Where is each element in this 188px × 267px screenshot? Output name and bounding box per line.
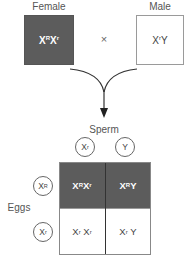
allele-base: X (83, 226, 89, 237)
allele-base: X (72, 180, 78, 191)
allele-base: X (119, 226, 125, 237)
allele-base: X (72, 226, 78, 237)
sperm-allele-circle: Y (115, 137, 135, 157)
egg-allele-circle: Xr (33, 222, 53, 242)
eggs-label: Eggs (4, 202, 34, 213)
punnett-square: XRXr XRY Xr Xr Xr Y (59, 162, 151, 255)
allele-base: Y (130, 180, 136, 191)
sperm-label: Sperm (84, 124, 124, 135)
allele-base: Y (130, 226, 136, 237)
punnett-cell: XRY (105, 162, 151, 208)
allele-base: X (119, 180, 125, 191)
sperm-allele-circle: Xr (75, 137, 95, 157)
egg-allele-circle: XR (33, 176, 53, 196)
punnett-cell: Xr Y (105, 208, 151, 255)
allele-base: X (38, 181, 44, 191)
allele-base: Y (122, 142, 128, 152)
grid-divider (105, 162, 106, 255)
punnett-cell: XRXr (59, 162, 105, 208)
punnett-cell: Xr Xr (59, 208, 105, 255)
